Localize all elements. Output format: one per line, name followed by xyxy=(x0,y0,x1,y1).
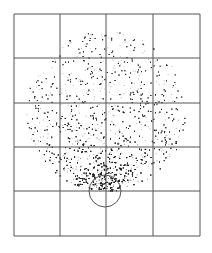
density-diagram xyxy=(0,0,212,253)
plot-canvas xyxy=(0,0,212,253)
